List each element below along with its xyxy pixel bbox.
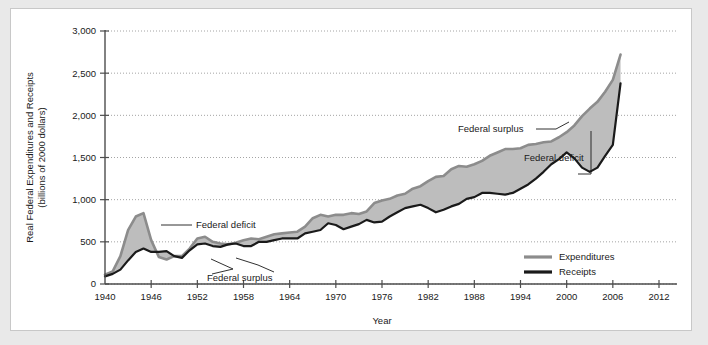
y-axis-title: Real Federal Expenditures and Receipts bbox=[24, 72, 35, 243]
annot-surplus-2000: Federal surplus bbox=[458, 122, 569, 134]
x-tick-label: 2006 bbox=[602, 291, 623, 302]
annot-surplus-1950s-label: Federal surplus bbox=[207, 272, 273, 283]
x-tick-label: 1940 bbox=[94, 291, 115, 302]
y-tick-label: 1,500 bbox=[72, 152, 96, 163]
screenshot-page: 05001,0001,5002,0002,5003,000 1940194619… bbox=[0, 0, 708, 345]
y-tick-label: 1,000 bbox=[72, 194, 96, 205]
y-tick-label: 0 bbox=[91, 278, 96, 289]
x-tick-label: 1964 bbox=[279, 291, 300, 302]
deficit-surplus-band bbox=[105, 55, 621, 277]
x-tick-label: 1988 bbox=[464, 291, 485, 302]
x-tick-label: 1946 bbox=[141, 291, 162, 302]
annot-deficit-ww2-label: Federal deficit bbox=[196, 219, 256, 230]
annot-deficit-2003-label: Federal deficit bbox=[524, 152, 584, 163]
legend-label-expenditures: Expenditures bbox=[559, 251, 615, 262]
x-tick-label: 1958 bbox=[233, 291, 254, 302]
receipts-line bbox=[105, 83, 621, 276]
y-tick-label: 3,000 bbox=[72, 25, 96, 36]
annot-deficit-ww2: Federal deficit bbox=[161, 219, 256, 230]
annot-surplus-2000-label: Federal surplus bbox=[458, 123, 524, 134]
x-tick-label: 2000 bbox=[556, 291, 577, 302]
y-axis-ticks: 05001,0001,5002,0002,5003,000 bbox=[72, 25, 109, 289]
legend-label-receipts: Receipts bbox=[559, 266, 596, 277]
chart-card: 05001,0001,5002,0002,5003,000 1940194619… bbox=[10, 8, 692, 331]
plot-group bbox=[105, 55, 621, 277]
chart-legend: Expenditures Receipts bbox=[524, 251, 615, 277]
x-tick-label: 1952 bbox=[187, 291, 208, 302]
x-tick-label: 1982 bbox=[418, 291, 439, 302]
annot-surplus-1950s: Federal surplus bbox=[207, 258, 274, 283]
y-tick-label: 2,500 bbox=[72, 68, 96, 79]
x-tick-label: 1970 bbox=[325, 291, 346, 302]
y-tick-label: 500 bbox=[80, 236, 96, 247]
federal-expenditures-receipts-chart: 05001,0001,5002,0002,5003,000 1940194619… bbox=[11, 9, 691, 330]
x-axis-title: Year bbox=[372, 315, 391, 326]
x-tick-label: 1976 bbox=[371, 291, 392, 302]
x-tick-label: 1994 bbox=[510, 291, 531, 302]
y-axis-title-units: (billions of 2000 dollars) bbox=[36, 107, 47, 207]
y-tick-label: 2,000 bbox=[72, 110, 96, 121]
x-tick-label: 2012 bbox=[648, 291, 669, 302]
